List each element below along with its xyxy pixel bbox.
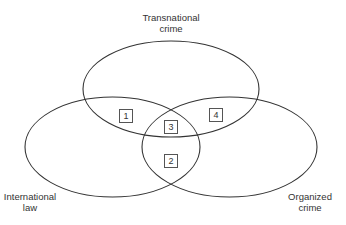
region-2-box: 2 <box>164 154 178 168</box>
label-line: law <box>0 202 60 213</box>
region-1-box: 1 <box>119 109 133 123</box>
region-4-box: 4 <box>209 108 223 122</box>
international-law-label: International law <box>0 191 60 213</box>
label-line: Organized <box>280 191 340 202</box>
region-3-box: 3 <box>164 120 178 134</box>
organized-crime-label: Organized crime <box>280 191 340 213</box>
label-line: crime <box>280 202 340 213</box>
label-line: International <box>0 191 60 202</box>
transnational-crime-label: Transnational crime <box>131 12 211 34</box>
international-law-ellipse <box>25 97 200 197</box>
organized-crime-ellipse <box>142 97 317 197</box>
label-line: crime <box>131 23 211 34</box>
label-line: Transnational <box>131 12 211 23</box>
